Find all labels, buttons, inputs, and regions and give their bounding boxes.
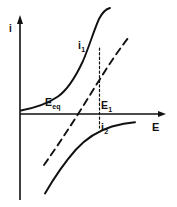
label-e1: E1 — [101, 100, 112, 111]
label-i1: i1 — [78, 40, 85, 51]
anodic-solid-curve — [21, 8, 110, 111]
curves-group — [21, 8, 135, 194]
current-potential-figure: i E i1 E1 i2 Eeq — [0, 0, 177, 207]
label-i2: i2 — [101, 122, 108, 133]
y-axis-arrowhead — [17, 15, 23, 24]
label-i1-sub: 1 — [81, 46, 85, 53]
label-e1-base: E — [101, 99, 108, 111]
y-axis-label: i — [9, 24, 12, 34]
x-axis-label: E — [152, 122, 159, 133]
label-eeq-sub: eq — [52, 103, 60, 110]
label-eeq-base: E — [45, 96, 52, 108]
label-i2-sub: 2 — [104, 128, 108, 135]
label-eeq: Eeq — [45, 97, 60, 108]
x-axis-arrowhead — [158, 111, 166, 117]
label-e1-sub: 1 — [108, 106, 112, 113]
axes-group — [17, 15, 166, 200]
plot-canvas — [0, 0, 177, 207]
cathodic-solid-curve — [45, 122, 135, 193]
